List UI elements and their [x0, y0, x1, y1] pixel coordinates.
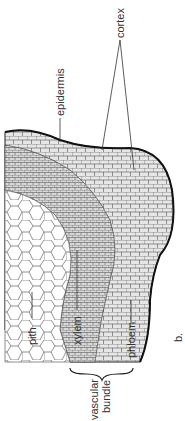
epidermis-label: epidermis: [54, 68, 66, 116]
phloem-label: phloem: [125, 322, 137, 358]
panel-label: b.: [172, 333, 184, 342]
vascular-bundle-label-line2: bundle: [100, 380, 112, 413]
vascular-bundle-brace: [70, 368, 133, 380]
cortex-label: cortex: [114, 8, 126, 38]
stem-cross-section-diagram: cortex epidermis pith xylem phloem vascu…: [0, 0, 185, 421]
vascular-bundle-label-line1: vascular: [88, 379, 100, 420]
cortex-leader-1: [102, 40, 120, 150]
pith-label: pith: [26, 327, 38, 345]
xylem-label: xylem: [71, 316, 83, 345]
